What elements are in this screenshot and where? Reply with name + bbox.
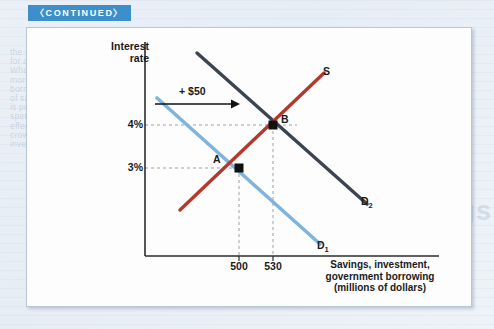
curve-demand-2 [197,53,367,204]
curve-label-demand-2: D2 [361,195,373,210]
x-tick-label-530: 530 [257,260,289,272]
x-axis-label: Savings, investment, government borrowin… [304,259,456,294]
curve-label-demand-1: D1 [317,239,329,254]
y-tick-label-4: 4% [113,118,143,130]
figure-panel: Interest rate 4% 3% 500 530 Savings, inv… [26,27,472,307]
equilibrium-marker-a [235,164,244,173]
y-axis-label: Interest rate [83,40,149,64]
curve-label-supply: S [323,65,330,77]
continued-badge: 〈CONTINUED〉 [28,5,131,21]
equilibrium-marker-b [269,121,278,130]
equilibrium-label-a: A [213,153,221,165]
equilibrium-label-b: B [281,113,289,125]
shift-arrow-head [231,100,240,109]
curve-label-demand-2-sub: 2 [369,201,373,210]
y-tick-label-3: 3% [113,161,143,173]
curve-label-demand-1-sub: 1 [325,245,329,254]
curve-label-demand-1-text: D [317,239,325,251]
curve-label-demand-2-text: D [361,195,369,207]
x-tick-label-500: 500 [223,260,255,272]
shift-annotation-label: + $50 [179,85,206,97]
